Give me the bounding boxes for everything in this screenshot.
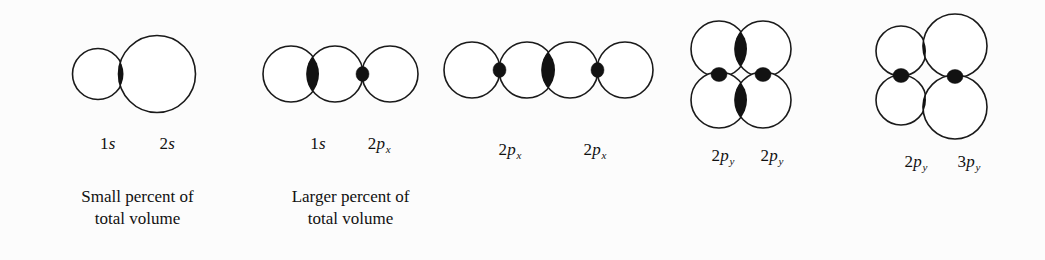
- orbital-label: 2px: [499, 140, 522, 161]
- caption-line: Larger percent of: [243, 186, 458, 208]
- orbital-label-symbol: s: [319, 134, 326, 153]
- orbital-label-symbol: s: [168, 134, 175, 153]
- orbital-label-symbol: p: [913, 152, 922, 171]
- orbital-label-subscript: y: [975, 161, 980, 173]
- orbital-diagram-2py-2py: [655, 0, 840, 150]
- orbital-lobe-right-bottom: [923, 75, 987, 139]
- orbital-label-symbol: p: [507, 140, 516, 159]
- orbital-label-symbol: p: [376, 134, 385, 153]
- orbital-label-symbol: s: [109, 134, 116, 153]
- orbital-label-number: 2: [712, 146, 721, 165]
- panel-caption: Larger percent of total volume: [243, 186, 458, 231]
- caption-line: Small percent of: [30, 186, 245, 208]
- panel-1s-2px: 1s 2px Larger percent of total volume: [243, 0, 458, 260]
- orbital-labels-1s-2s: 1s 2s: [30, 134, 245, 154]
- panel-caption: Small percent of total volume: [30, 186, 245, 231]
- orbital-lobe-1s: [73, 49, 124, 100]
- orbital-lobe-2s: [119, 36, 196, 113]
- orbital-lobe-2px-far: [362, 46, 418, 102]
- orbital-node-dot: [711, 68, 727, 82]
- orbital-lobe-left-outer: [444, 42, 500, 98]
- orbital-label: 2s: [160, 134, 176, 154]
- orbital-label-symbol: p: [720, 146, 729, 165]
- orbital-node-dot: [591, 63, 604, 78]
- orbital-label: 1s: [310, 134, 326, 154]
- orbital-label-symbol: p: [769, 146, 778, 165]
- panel-1s-2s: 1s 2s Small percent of total volume: [30, 0, 245, 260]
- orbital-label-number: 2: [584, 140, 593, 159]
- orbital-label: 3py: [958, 152, 981, 173]
- orbital-label: 2px: [368, 134, 391, 155]
- orbital-labels-2py-3py: 2py 3py: [845, 152, 1040, 173]
- orbital-label-subscript: x: [516, 149, 521, 161]
- orbital-node-dot: [356, 67, 369, 82]
- orbital-overlap-figure: 1s 2s Small percent of total volume: [0, 0, 1045, 260]
- orbital-label: 2py: [905, 152, 928, 173]
- orbital-node-dot: [893, 69, 909, 83]
- orbital-diagram-1s-2s: [30, 0, 245, 150]
- orbital-label-subscript: x: [386, 143, 391, 155]
- orbital-node-dot: [947, 70, 963, 84]
- orbital-label-symbol: p: [592, 140, 601, 159]
- orbital-label-number: 2: [160, 134, 169, 153]
- orbital-label-subscript: y: [922, 161, 927, 173]
- caption-line: total volume: [243, 208, 458, 230]
- orbital-labels-2px-2px: 2px 2px: [440, 140, 665, 161]
- orbital-lobe-right-outer: [597, 42, 653, 98]
- orbital-label-number: 2: [761, 146, 770, 165]
- orbital-diagram-1s-2px: [243, 0, 458, 150]
- orbital-label: 1s: [100, 134, 116, 154]
- panel-2px-2px: 2px 2px: [440, 0, 665, 260]
- orbital-labels-2py-2py: 2py 2py: [655, 146, 840, 167]
- orbital-label-subscript: y: [729, 155, 734, 167]
- orbital-label-number: 3: [958, 152, 967, 171]
- orbital-lobe-right-top: [923, 14, 987, 78]
- orbital-label-subscript: x: [601, 149, 606, 161]
- orbital-label-subscript: y: [778, 155, 783, 167]
- panel-2py-2py: 2py 2py: [655, 0, 840, 260]
- orbital-diagram-2py-3py: [845, 0, 1040, 150]
- orbital-label-symbol: p: [966, 152, 975, 171]
- orbital-diagram-2px-2px: [440, 0, 665, 150]
- panel-2py-3py: 2py 3py: [845, 0, 1040, 260]
- orbital-label-number: 1: [310, 134, 319, 153]
- orbital-label-number: 2: [499, 140, 508, 159]
- caption-line: total volume: [30, 208, 245, 230]
- orbital-label-number: 1: [100, 134, 109, 153]
- orbital-labels-1s-2px: 1s 2px: [243, 134, 458, 155]
- orbital-label: 2py: [761, 146, 784, 167]
- orbital-label: 2px: [584, 140, 607, 161]
- orbital-node-dot: [493, 63, 506, 78]
- orbital-node-dot: [755, 68, 771, 82]
- orbital-label-number: 2: [905, 152, 914, 171]
- orbital-label: 2py: [712, 146, 735, 167]
